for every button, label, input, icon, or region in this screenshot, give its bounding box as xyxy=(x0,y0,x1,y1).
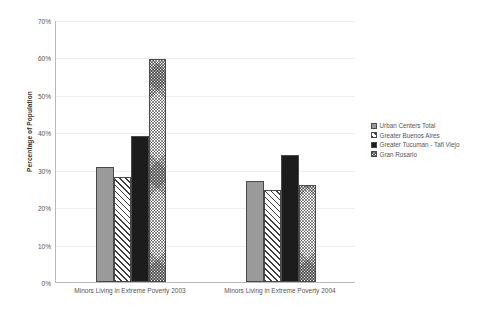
bar-group xyxy=(246,21,316,282)
y-axis-title: Percentage of Population xyxy=(26,57,33,207)
y-axis-tick-label: 70% xyxy=(38,18,51,25)
bar-gran-rosario[interactable] xyxy=(149,59,167,282)
legend-swatch-icon xyxy=(371,132,377,138)
chart-legend: Urban Centers TotalGreater Buenos AiresG… xyxy=(371,122,459,160)
y-axis-tick-label: 20% xyxy=(38,205,51,212)
legend-label: Greater Buenos Aires xyxy=(380,132,440,139)
bar-greater-tucuman-tafi-viejo[interactable] xyxy=(281,155,299,282)
bar-urban-centers-total[interactable] xyxy=(96,167,114,282)
legend-item[interactable]: Gran Rosario xyxy=(371,151,459,158)
y-axis-tick-label: 30% xyxy=(38,167,51,174)
y-axis-tick-label: 0% xyxy=(42,280,51,287)
y-axis-tick-label: 10% xyxy=(38,242,51,249)
legend-label: Urban Centers Total xyxy=(380,122,436,129)
legend-item[interactable]: Greater Tucuman - Tafi Viejo xyxy=(371,141,459,148)
y-axis-tick-label: 60% xyxy=(38,55,51,62)
legend-swatch-icon xyxy=(371,151,377,157)
bar-gran-rosario[interactable] xyxy=(299,185,317,282)
legend-item[interactable]: Urban Centers Total xyxy=(371,122,459,129)
y-axis-tick-label: 40% xyxy=(38,130,51,137)
x-axis-category-label: Minors Living in Extreme Poverty 2003 xyxy=(74,287,185,294)
bar-urban-centers-total[interactable] xyxy=(246,181,264,282)
bar-chart: Percentage of Population 0%10%20%30%40%5… xyxy=(0,0,491,310)
x-axis-category-label: Minors Living in Extreme Poverty 2004 xyxy=(224,287,335,294)
legend-swatch-icon xyxy=(371,142,377,148)
legend-swatch-icon xyxy=(371,123,377,129)
bar-greater-buenos-aires[interactable] xyxy=(264,190,282,282)
bar-group xyxy=(96,21,166,282)
legend-item[interactable]: Greater Buenos Aires xyxy=(371,132,459,139)
plot-area: 0%10%20%30%40%50%60%70% xyxy=(55,21,355,283)
legend-label: Gran Rosario xyxy=(380,151,417,158)
bar-greater-tucuman-tafi-viejo[interactable] xyxy=(131,136,149,282)
y-axis-tick-label: 50% xyxy=(38,92,51,99)
gridline-0pct xyxy=(56,283,355,284)
legend-label: Greater Tucuman - Tafi Viejo xyxy=(380,141,460,148)
bar-greater-buenos-aires[interactable] xyxy=(114,177,132,282)
